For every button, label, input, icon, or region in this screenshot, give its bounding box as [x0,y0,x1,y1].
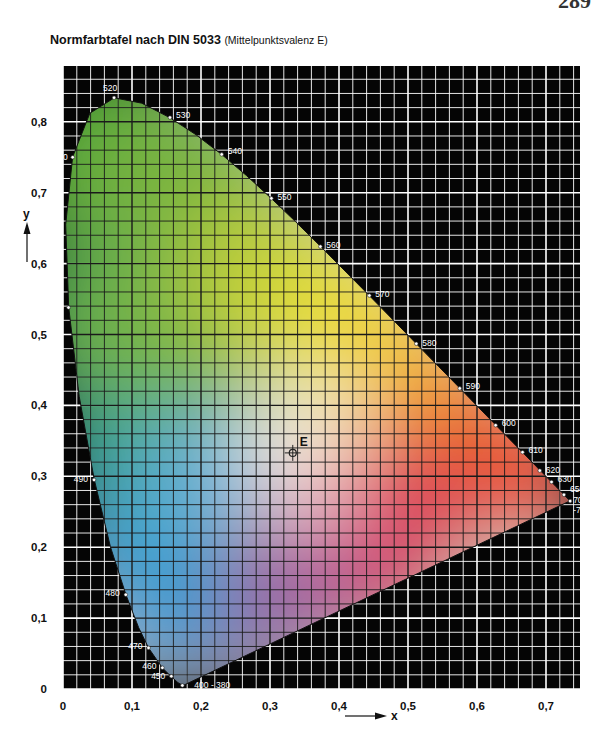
y-axis-ticks: 00,10,20,30,40,50,60,70,8 [31,116,48,695]
wavelength-label: 480 [106,588,120,598]
wavelength-label: 490 [74,474,88,484]
x-axis-letter: x [391,709,398,723]
wavelength-label: 630 [558,474,572,484]
x-tick-label: 0,2 [193,700,209,712]
wavelength-label: 520 [103,83,117,93]
wavelength-label: 400 - 380 [194,680,230,690]
wavelength-label: 500 [49,302,63,312]
wavelength-label: 590 [466,381,480,391]
x-tick-label: 0,6 [469,700,485,712]
wavelength-label: 570 [375,289,389,299]
wavelength-label: 540 [228,146,242,156]
wavelength-label: 510 [53,152,67,162]
x-axis-arrow: x [345,709,398,723]
wavelength-label: 450 [151,671,165,681]
wavelength-label: 550 [277,192,291,202]
y-tick-label: 0,7 [31,187,47,199]
y-tick-label: 0,8 [31,116,48,128]
wavelength-label: 600 [502,418,516,428]
y-tick-label: 0,4 [31,399,48,411]
cie-chromaticity-chart: 400 - 3804504604704804905005105205305405… [0,0,609,741]
wavelength-label: 530 [176,110,190,120]
x-tick-label: 0,4 [331,700,348,712]
wavelength-label: 460 [142,661,156,671]
y-axis-letter: y [23,207,30,221]
x-tick-label: 0 [60,700,66,712]
wavelength-label: 470 [128,641,142,651]
x-tick-label: 0,5 [400,700,417,712]
y-tick-label: 0,6 [31,258,47,270]
y-tick-label: 0 [41,683,47,695]
x-tick-label: 0,1 [124,700,141,712]
x-tick-label: 0,7 [538,700,554,712]
wavelength-label: 560 [326,240,340,250]
wavelength-label: 580 [422,338,436,348]
x-tick-label: 0,3 [262,700,278,712]
y-tick-label: 0,1 [31,612,48,624]
wavelength-label: -750 [573,505,590,515]
wavelength-label: 700 [573,495,587,505]
y-axis-arrow: y [23,207,31,262]
y-tick-label: 0,2 [31,541,47,553]
x-axis-ticks: 00,10,20,30,40,50,60,7 [60,700,554,712]
y-tick-label: 0,5 [31,329,48,341]
y-tick-label: 0,3 [31,470,47,482]
wavelength-label: 610 [529,445,543,455]
wavelength-label: 650 [570,484,584,494]
white-point-label: E [300,435,308,449]
